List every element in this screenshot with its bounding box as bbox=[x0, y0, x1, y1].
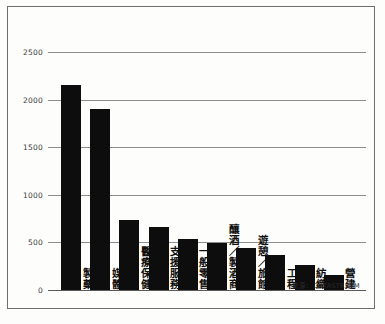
chart-frame: 05001000150020002500 製藥媒體醫療保健支援服務一般零售釀酒／… bbox=[7, 6, 375, 309]
plot-area: 05001000150020002500 製藥媒體醫療保健支援服務一般零售釀酒／… bbox=[48, 52, 366, 290]
bar bbox=[61, 85, 81, 290]
bar bbox=[236, 248, 256, 290]
bar bbox=[265, 255, 285, 290]
bar bbox=[119, 220, 139, 290]
y-axis-tick-label: 2500 bbox=[23, 48, 43, 57]
bar bbox=[207, 243, 227, 290]
bar bbox=[149, 227, 169, 290]
y-axis-tick-label: 0 bbox=[38, 286, 43, 295]
x-axis-line: 0 bbox=[48, 290, 366, 291]
y-axis-tick-label: 1000 bbox=[23, 190, 43, 199]
source-note: 來源：DATASTREAM bbox=[292, 280, 360, 290]
y-axis-tick-label: 2000 bbox=[23, 95, 43, 104]
y-axis-tick-label: 1500 bbox=[23, 143, 43, 152]
gridline: 2000 bbox=[48, 100, 366, 101]
bar bbox=[178, 239, 198, 290]
y-axis-tick-label: 500 bbox=[28, 238, 43, 247]
chart-figure: 05001000150020002500 製藥媒體醫療保健支援服務一般零售釀酒／… bbox=[0, 0, 385, 324]
gridline: 2500 bbox=[48, 52, 366, 53]
bar bbox=[90, 109, 110, 290]
